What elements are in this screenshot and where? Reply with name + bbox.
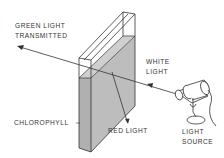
green-light-label-line1: GREEN LIGHT xyxy=(15,21,67,31)
green-light-arrowhead xyxy=(17,45,24,50)
light-source-lamp xyxy=(174,80,216,126)
light-source-label-line1: LIGHT xyxy=(182,127,213,137)
chlorophyll-label-text: CHLOROPHYLL xyxy=(14,118,69,128)
red-light-label: RED LIGHT xyxy=(108,126,148,136)
red-light-label-text: RED LIGHT xyxy=(108,126,148,136)
liquid-side-face xyxy=(79,78,91,152)
light-source-label-line2: SOURCE xyxy=(182,137,213,147)
white-light-label-line1: WHITE xyxy=(146,57,170,67)
green-light-label: GREEN LIGHT TRANSMITTED xyxy=(15,21,67,41)
green-light-label-line2: TRANSMITTED xyxy=(15,31,67,41)
chlorophyll-label: CHLOROPHYLL xyxy=(14,118,69,128)
red-light-arrowhead xyxy=(125,119,130,125)
white-light-label: WHITE LIGHT xyxy=(146,57,170,77)
white-light-label-line2: LIGHT xyxy=(146,67,170,77)
light-source-label: LIGHT SOURCE xyxy=(182,127,213,147)
